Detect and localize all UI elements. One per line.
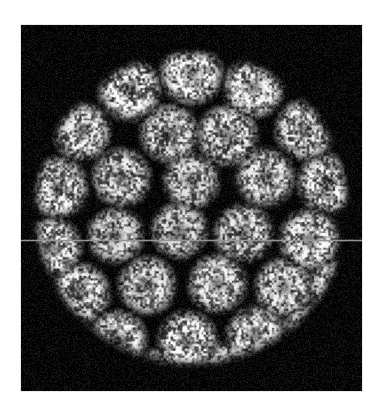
virus-capsid-micrograph-image bbox=[21, 25, 362, 391]
figure-root: Virus capsid electron micrograph icosahe… bbox=[0, 0, 379, 413]
micrograph-panel bbox=[21, 25, 362, 391]
